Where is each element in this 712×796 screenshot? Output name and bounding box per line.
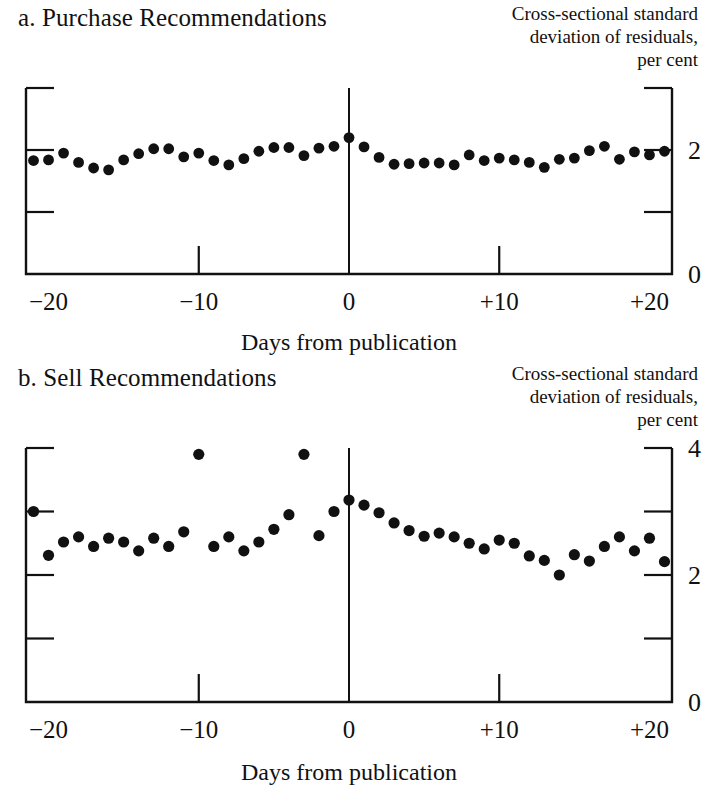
data-point xyxy=(599,541,610,552)
data-point xyxy=(344,132,355,143)
data-point xyxy=(73,157,84,168)
data-point xyxy=(299,150,310,161)
data-point xyxy=(253,536,264,547)
xtick-label-10: +10 xyxy=(480,716,519,743)
data-point xyxy=(358,500,369,511)
data-point xyxy=(404,158,415,169)
yaxis-caption-line-2: deviation of residuals, xyxy=(418,385,698,408)
data-point xyxy=(193,148,204,159)
data-point xyxy=(163,541,174,552)
panel-b-yaxis-caption: Cross-sectional standard deviation of re… xyxy=(418,362,698,431)
xtick-label--10: −10 xyxy=(179,288,218,315)
panel-sell-recommendations: b. Sell Recommendations Cross-sectional … xyxy=(0,360,712,796)
data-point xyxy=(644,150,655,161)
data-point xyxy=(118,155,129,166)
data-point xyxy=(58,148,69,159)
data-point xyxy=(133,545,144,556)
data-point xyxy=(268,524,279,535)
xtick-label-10: +10 xyxy=(480,288,519,315)
panel-b-title: b. Sell Recommendations xyxy=(18,364,277,392)
data-point xyxy=(374,152,385,163)
data-point xyxy=(103,533,114,544)
data-point xyxy=(208,541,219,552)
data-point xyxy=(178,526,189,537)
data-point xyxy=(58,536,69,547)
data-point xyxy=(629,146,640,157)
ytick-label-0: 0 xyxy=(688,688,701,717)
panel-a-plot-area: 02−20−100+10+20Days from publication xyxy=(0,78,712,360)
xtick-label--10: −10 xyxy=(179,716,218,743)
data-point xyxy=(494,153,505,164)
data-point xyxy=(373,507,384,518)
data-point xyxy=(253,146,264,157)
data-point xyxy=(88,163,99,174)
ytick-label-0: 0 xyxy=(688,260,701,289)
data-point xyxy=(238,545,249,556)
data-point xyxy=(449,531,460,542)
data-point xyxy=(223,531,234,542)
data-point xyxy=(148,143,159,154)
data-point xyxy=(434,158,445,169)
data-point xyxy=(208,155,219,166)
ytick-label-4: 4 xyxy=(688,438,701,463)
xtick-label-20: +20 xyxy=(630,288,669,315)
data-point xyxy=(328,506,339,517)
data-point xyxy=(629,545,640,556)
data-point xyxy=(163,143,174,154)
data-point xyxy=(43,550,54,561)
data-point xyxy=(238,153,249,164)
data-point xyxy=(614,154,625,165)
data-point xyxy=(539,555,550,566)
panel-b-header: b. Sell Recommendations Cross-sectional … xyxy=(0,360,712,438)
data-point xyxy=(464,538,475,549)
xaxis-title: Days from publication xyxy=(241,759,457,785)
xtick-label--20: −20 xyxy=(29,716,68,743)
yaxis-caption-line-3: per cent xyxy=(418,48,698,71)
data-point xyxy=(28,506,39,517)
data-point xyxy=(479,155,490,166)
data-point xyxy=(178,151,189,162)
data-point xyxy=(268,142,279,153)
data-point xyxy=(569,549,580,560)
data-point xyxy=(28,155,39,166)
data-point xyxy=(509,538,520,549)
data-point xyxy=(133,148,144,159)
panel-a-header: a. Purchase Recommendations Cross-sectio… xyxy=(0,0,712,78)
data-point xyxy=(644,533,655,544)
data-point xyxy=(43,155,54,166)
panel-a-yaxis-caption: Cross-sectional standard deviation of re… xyxy=(418,2,698,71)
data-point xyxy=(554,569,565,580)
scatter-plot-purchase: 02−20−100+10+20Days from publication xyxy=(0,78,712,360)
data-point xyxy=(118,536,129,547)
data-point xyxy=(284,142,295,153)
data-point xyxy=(313,530,324,541)
data-point xyxy=(103,164,114,175)
data-point xyxy=(584,555,595,566)
data-point xyxy=(329,141,340,152)
data-point xyxy=(464,150,475,161)
yaxis-caption-line-3: per cent xyxy=(418,408,698,431)
data-point xyxy=(524,157,535,168)
data-point xyxy=(614,531,625,542)
data-point xyxy=(419,158,430,169)
yaxis-caption-line-1: Cross-sectional standard xyxy=(418,2,698,25)
data-point xyxy=(389,159,400,170)
panel-a-title: a. Purchase Recommendations xyxy=(18,4,327,32)
scatter-plot-sell: 024−20−100+10+20Days from publication xyxy=(0,438,712,796)
data-point xyxy=(539,162,550,173)
xtick-label-0: 0 xyxy=(343,288,356,315)
xtick-label-0: 0 xyxy=(343,716,356,743)
data-point xyxy=(509,155,520,166)
data-point xyxy=(554,154,565,165)
data-point xyxy=(298,449,309,460)
data-point xyxy=(449,159,460,170)
data-point xyxy=(283,509,294,520)
data-point xyxy=(494,534,505,545)
xtick-label-20: +20 xyxy=(630,716,669,743)
data-point xyxy=(434,527,445,538)
data-point xyxy=(223,159,234,170)
data-point xyxy=(314,143,325,154)
data-point xyxy=(599,141,610,152)
xtick-label--20: −20 xyxy=(29,288,68,315)
yaxis-caption-line-2: deviation of residuals, xyxy=(418,25,698,48)
